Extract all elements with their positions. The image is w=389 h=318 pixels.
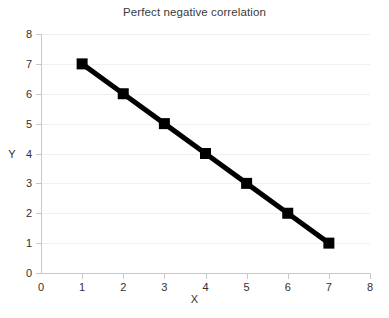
y-axis-tick	[36, 64, 41, 65]
y-axis-tick	[36, 34, 41, 35]
y-axis-tick-label: 5	[10, 119, 32, 130]
y-axis-tick-label: 3	[10, 178, 32, 189]
y-axis-tick-label: 6	[10, 89, 32, 100]
x-axis-tick-label: 5	[237, 282, 257, 293]
x-axis-tick	[206, 274, 207, 279]
x-axis-tick	[164, 274, 165, 279]
chart-container: Perfect negative correlation Y X 0123456…	[0, 0, 389, 318]
x-axis-tick-label: 2	[113, 282, 133, 293]
y-axis-line	[41, 34, 42, 274]
y-axis-tick-label: 8	[10, 29, 32, 40]
gridline-horizontal	[41, 154, 370, 155]
y-axis-tick-label: 7	[10, 59, 32, 70]
gridline-horizontal	[41, 34, 370, 35]
x-axis-tick	[329, 274, 330, 279]
gridline-horizontal	[41, 243, 370, 244]
y-axis-tick	[36, 213, 41, 214]
x-axis-tick	[123, 274, 124, 279]
x-axis-tick	[288, 274, 289, 279]
y-axis-tick	[36, 243, 41, 244]
x-axis-tick	[370, 274, 371, 279]
x-axis-tick-label: 0	[31, 282, 51, 293]
y-axis-tick-label: 2	[10, 208, 32, 219]
gridline-horizontal	[41, 124, 370, 125]
x-axis-tick-label: 1	[72, 282, 92, 293]
x-axis-tick-label: 7	[319, 282, 339, 293]
y-axis-tick-label: 1	[10, 238, 32, 249]
gridline-horizontal	[41, 94, 370, 95]
gridline-horizontal	[41, 213, 370, 214]
x-axis-tick-label: 4	[196, 282, 216, 293]
x-axis-tick-label: 3	[154, 282, 174, 293]
chart-title: Perfect negative correlation	[0, 6, 389, 18]
y-axis-tick	[36, 183, 41, 184]
y-axis-tick	[36, 154, 41, 155]
gridline-horizontal	[41, 64, 370, 65]
x-axis-tick	[247, 274, 248, 279]
x-axis-tick-label: 6	[278, 282, 298, 293]
x-axis-title: X	[0, 293, 389, 305]
x-axis-tick	[82, 274, 83, 279]
y-axis-tick	[36, 124, 41, 125]
y-axis-tick-label: 4	[10, 149, 32, 160]
x-axis-tick-label: 8	[360, 282, 380, 293]
y-axis-tick	[36, 94, 41, 95]
plot-area	[41, 34, 370, 273]
y-axis-tick-label: 0	[10, 268, 32, 279]
y-axis-tick	[36, 273, 41, 274]
gridline-horizontal	[41, 183, 370, 184]
